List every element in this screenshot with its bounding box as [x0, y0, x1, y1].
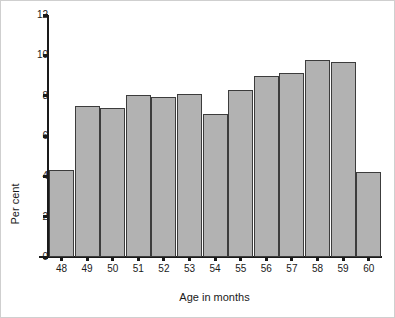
bar — [331, 62, 356, 257]
bar — [177, 94, 202, 257]
bar — [151, 97, 176, 257]
y-tick-label: 4 — [26, 171, 48, 181]
bar — [228, 90, 253, 257]
x-tick-label: 48 — [49, 263, 75, 275]
x-tick-label: 60 — [356, 263, 382, 275]
x-tick-mark — [367, 258, 370, 261]
x-tick-label: 54 — [202, 263, 228, 275]
bar — [356, 172, 381, 257]
y-tick-label-wrap: 10 — [1, 50, 48, 60]
x-tick-mark — [111, 258, 114, 261]
x-tick-mark — [137, 258, 140, 261]
y-tick-label-wrap: 6 — [1, 131, 48, 141]
x-tick-label: 58 — [305, 263, 331, 275]
x-tick-mark — [316, 258, 319, 261]
y-tick-label: 10 — [26, 50, 48, 60]
x-tick-label: 57 — [279, 263, 305, 275]
x-tick-mark — [214, 258, 217, 261]
x-tick-mark — [265, 258, 268, 261]
y-tick-label-wrap: 8 — [1, 91, 48, 101]
x-tick-label: 55 — [228, 263, 254, 275]
x-axis-title: Age in months — [47, 291, 382, 303]
bar — [279, 73, 304, 257]
y-tick-label: 12 — [26, 10, 48, 20]
x-tick-mark — [162, 258, 165, 261]
x-tick-mark — [290, 258, 293, 261]
x-tick-mark — [239, 258, 242, 261]
x-tick-label: 59 — [330, 263, 356, 275]
y-tick-label: 6 — [26, 131, 48, 141]
bar — [254, 76, 279, 258]
y-tick-label-wrap: 0 — [1, 252, 48, 262]
bar — [126, 95, 151, 257]
x-tick-mark — [86, 258, 89, 261]
y-tick-label: 0 — [26, 252, 48, 262]
chart-figure: 024681012 48495051525354555657585960 Per… — [0, 0, 395, 318]
x-tick-mark — [60, 258, 63, 261]
y-tick-label-wrap: 12 — [1, 10, 48, 20]
bar — [49, 170, 74, 257]
x-tick-mark — [342, 258, 345, 261]
x-tick-label: 53 — [177, 263, 203, 275]
y-tick-label: 2 — [26, 212, 48, 222]
x-tick-label: 50 — [100, 263, 126, 275]
x-tick-label: 51 — [125, 263, 151, 275]
bar — [203, 114, 228, 257]
bar — [305, 60, 330, 257]
x-tick-label: 56 — [253, 263, 279, 275]
x-tick-label: 52 — [151, 263, 177, 275]
x-tick-mark — [188, 258, 191, 261]
y-tick-label: 8 — [26, 91, 48, 101]
x-tick-label: 49 — [74, 263, 100, 275]
y-axis-title: Per cent — [9, 169, 21, 239]
plot-area: 024681012 48495051525354555657585960 Per… — [1, 1, 395, 318]
bar — [75, 106, 100, 257]
bar — [100, 108, 125, 257]
